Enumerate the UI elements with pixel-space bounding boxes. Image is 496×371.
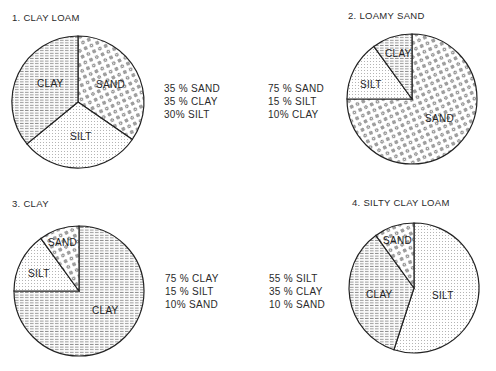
label-silt: SILT (28, 268, 50, 279)
label-silt: SILT (70, 131, 92, 142)
legend-item: 15 % SILT (165, 285, 219, 298)
legend-clay: 75 % CLAY 15 % SILT 10% SAND (165, 272, 219, 311)
label-clay: CLAY (366, 289, 393, 300)
legend-item: 35 % CLAY (164, 95, 220, 108)
label-silt: SILT (360, 79, 382, 90)
legend-item: 75 % CLAY (165, 272, 219, 285)
label-sand: SAND (96, 79, 125, 90)
legend-item: 10% SAND (165, 298, 219, 311)
pie-clay-loam: SAND SILT CLAY (12, 36, 144, 168)
legend-item: 55 % SILT (269, 272, 325, 285)
label-clay: CLAY (92, 305, 119, 316)
label-clay: CLAY (385, 48, 412, 59)
pie-clay: CLAY SILT SAND (14, 226, 144, 356)
legend-item: 10% CLAY (268, 108, 324, 121)
label-sand: SAND (383, 235, 412, 246)
chart-title-clay-loam: 1. CLAY LOAM (12, 12, 80, 23)
legend-item: 35 % CLAY (269, 285, 325, 298)
legend-item: 10 % SAND (269, 298, 325, 311)
chart-title-clay: 3. CLAY (12, 198, 49, 209)
legend-clay-loam: 35 % SAND 35 % CLAY 30% SILT (164, 82, 220, 121)
pie-charts-canvas: SAND SILT CLAY SAND SILT CLAY CLAY SILT … (0, 0, 496, 371)
label-sand: SAND (48, 237, 77, 248)
label-silt: SILT (432, 290, 454, 301)
chart-title-loamy-sand: 2. LOAMY SAND (348, 10, 425, 21)
chart-title-silty-clay-loam: 4. SILTY CLAY LOAM (352, 197, 450, 208)
pie-loamy-sand: SAND SILT CLAY (347, 34, 477, 164)
legend-item: 30% SILT (164, 108, 220, 121)
label-sand: SAND (425, 113, 454, 124)
pie-silty-clay-loam: SILT CLAY SAND (349, 223, 479, 353)
legend-item: 15 % SILT (268, 95, 324, 108)
legend-item: 35 % SAND (164, 82, 220, 95)
legend-silty-clay-loam: 55 % SILT 35 % CLAY 10 % SAND (269, 272, 325, 311)
legend-item: 75 % SAND (268, 82, 324, 95)
label-clay: CLAY (37, 78, 64, 89)
legend-loamy-sand: 75 % SAND 15 % SILT 10% CLAY (268, 82, 324, 121)
